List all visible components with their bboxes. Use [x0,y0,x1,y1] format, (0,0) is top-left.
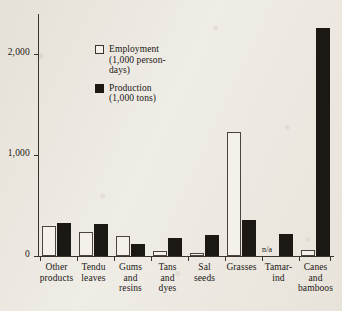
bar-production [131,244,145,256]
y-axis-tick-label: 0 [25,249,30,259]
x-axis-tick [40,256,41,261]
bar-employment [116,236,130,256]
y-axis-tick-label: 1,000 [8,148,30,158]
bar-production [242,220,256,256]
plot-area: 01,0002,000 n/a [38,14,334,257]
bar-group [190,14,219,256]
bar-employment [227,132,241,256]
legend-swatch-production [95,84,104,93]
bar-production [168,238,182,256]
bar-employment [79,232,93,256]
bar-group: n/a [264,14,293,256]
bar-employment [190,253,204,256]
bar-employment [153,251,167,256]
chart-legend: Employment (1,000 person- days)Productio… [95,44,166,111]
x-axis-tick [262,256,263,261]
bar-employment [42,226,56,256]
legend-entry: Production (1,000 tons) [95,83,166,104]
bar-employment [301,250,315,256]
x-axis-category-label: Grasses [223,262,260,273]
bar-production [205,235,219,256]
y-axis-tick: 1,000 [34,155,39,156]
bar-value-na-label: n/a [262,245,272,254]
x-axis-tick [225,256,226,261]
x-axis-tick [299,256,300,261]
x-axis-category-label: Sal seeds [186,262,223,283]
x-axis-tick [188,256,189,261]
legend-label: Production (1,000 tons) [109,83,156,104]
x-axis-category-label: Gums and resins [112,262,149,294]
bar-production [279,234,293,256]
bar-group [301,14,330,256]
x-axis-tick [330,256,331,261]
bar-group [227,14,256,256]
x-axis-category-label: Other products [38,262,75,283]
bar-chart-figure: 01,0002,000 n/a Other productsTendu leav… [0,0,342,311]
x-axis-category-label: Canes and bamboos [297,262,334,294]
x-axis-tick [77,256,78,261]
bar-group [42,14,71,256]
y-axis-line [38,14,39,257]
x-axis-category-label: Tamar- ind [260,262,297,283]
x-axis-category-label: Tendu leaves [75,262,112,283]
x-axis-category-label: Tans and dyes [149,262,186,294]
y-axis-tick: 0 [34,256,39,257]
y-axis-tick-label: 2,000 [8,47,30,57]
y-axis-tick: 2,000 [34,54,39,55]
x-axis-tick [114,256,115,261]
x-axis-line [38,256,334,257]
legend-entry: Employment (1,000 person- days) [95,44,166,76]
x-axis-tick [151,256,152,261]
bar-production [316,28,330,256]
legend-swatch-employment [95,45,104,54]
legend-label: Employment (1,000 person- days) [109,44,166,76]
bar-production [94,224,108,256]
bar-production [57,223,71,256]
